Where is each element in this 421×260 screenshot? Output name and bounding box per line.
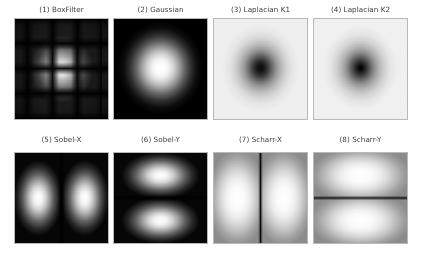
subplot-row-1: (1) BoxFilter (2) Gaussian (3) Laplacian… [0, 0, 421, 130]
boxfilter-vignette [15, 19, 108, 119]
scharr-x-vertical-null [214, 153, 307, 243]
spectrum-image-gaussian[interactable] [113, 18, 208, 120]
spectrum-image-scharr-y[interactable] [313, 152, 408, 244]
spectrum-image-laplacian-k1[interactable] [213, 18, 308, 120]
spectrum-image-laplacian-k2[interactable] [313, 18, 408, 120]
subplot-laplacian-k2[interactable]: (4) Laplacian K2 [313, 0, 411, 130]
spectrum-image-boxfilter[interactable] [14, 18, 109, 120]
subplot-sobel-y[interactable]: (6) Sobel-Y [113, 130, 211, 260]
subplot-laplacian-k1[interactable]: (3) Laplacian K1 [213, 0, 311, 130]
subplot-title-scharr-x: (7) Scharr-X [213, 135, 308, 144]
scharr-y-horizontal-null [314, 153, 407, 243]
sobel-x-vertical-null [15, 153, 108, 243]
subplot-row-2: (5) Sobel-X (6) Sobel-Y (7) Scharr-X [0, 130, 421, 260]
subplot-title-boxfilter: (1) BoxFilter [14, 5, 109, 14]
subplot-boxfilter[interactable]: (1) BoxFilter [14, 0, 112, 130]
laplacian-k2-dark-core [314, 19, 407, 119]
laplacian-k1-dark-core [214, 19, 307, 119]
subplot-title-laplacian-k1: (3) Laplacian K1 [213, 5, 308, 14]
spectrum-image-sobel-x[interactable] [14, 152, 109, 244]
subplot-title-scharr-y: (8) Scharr-Y [313, 135, 408, 144]
subplot-scharr-y[interactable]: (8) Scharr-Y [313, 130, 411, 260]
figure-canvas: (1) BoxFilter (2) Gaussian (3) Laplacian… [0, 0, 421, 260]
subplot-gaussian[interactable]: (2) Gaussian [113, 0, 211, 130]
gaussian-radial-blob [114, 19, 207, 119]
spectrum-image-scharr-x[interactable] [213, 152, 308, 244]
subplot-title-sobel-y: (6) Sobel-Y [113, 135, 208, 144]
subplot-title-sobel-x: (5) Sobel-X [14, 135, 109, 144]
spectrum-image-sobel-y[interactable] [113, 152, 208, 244]
subplot-title-laplacian-k2: (4) Laplacian K2 [313, 5, 408, 14]
subplot-scharr-x[interactable]: (7) Scharr-X [213, 130, 311, 260]
subplot-title-gaussian: (2) Gaussian [113, 5, 208, 14]
sobel-y-horizontal-null [114, 153, 207, 243]
subplot-sobel-x[interactable]: (5) Sobel-X [14, 130, 112, 260]
